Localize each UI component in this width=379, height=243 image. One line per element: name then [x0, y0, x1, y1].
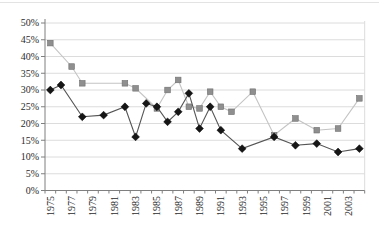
diamond-marker [78, 113, 86, 121]
diamond-marker [334, 148, 342, 156]
diamond-marker [57, 81, 65, 89]
y-axis-tick-label: 50% [21, 17, 39, 28]
x-axis-tick-label: 1981 [109, 196, 120, 216]
square-marker [69, 64, 75, 70]
square-marker [122, 81, 128, 87]
axes [45, 19, 365, 191]
y-axis-tick-label: 5% [26, 168, 39, 179]
black-diamonds-series-line [50, 85, 359, 152]
square-marker [293, 116, 299, 122]
x-axis-tick-label: 2003 [343, 196, 354, 216]
x-axis-tick-label: 1997 [279, 196, 290, 216]
diamond-marker [355, 145, 363, 153]
x-axis-tick-label: 2001 [322, 196, 333, 216]
y-axis-tick-label: 25% [21, 101, 39, 112]
square-marker [207, 89, 213, 95]
diamond-marker [132, 133, 140, 141]
diamond-marker [206, 103, 214, 111]
y-axis-ticks: 0%5%10%15%20%25%30%35%40%45%50% [21, 17, 45, 196]
black-diamonds-series [46, 81, 363, 156]
diamond-marker [185, 89, 193, 97]
y-axis-tick-label: 30% [21, 84, 39, 95]
x-axis-tick-label: 1977 [66, 196, 77, 216]
y-axis-tick-label: 0% [26, 185, 39, 196]
square-marker [218, 104, 224, 110]
diamond-marker [46, 86, 54, 94]
square-marker [314, 127, 320, 133]
diamond-marker [196, 125, 204, 133]
diamond-marker [121, 103, 129, 111]
square-marker [79, 81, 85, 87]
x-axis-tick-label: 1987 [173, 196, 184, 216]
x-axis-tick-label: 1995 [258, 196, 269, 216]
diamond-marker [100, 111, 108, 119]
square-marker [186, 104, 192, 110]
x-axis-tick-label: 1989 [194, 196, 205, 216]
line-chart: 0%5%10%15%20%25%30%35%40%45%50%197519771… [0, 0, 379, 243]
y-axis-tick-label: 15% [21, 135, 39, 146]
square-marker [250, 89, 256, 95]
y-axis-tick-label: 20% [21, 118, 39, 129]
square-marker [229, 109, 235, 115]
square-marker [197, 106, 203, 112]
x-axis-tick-label: 1993 [237, 196, 248, 216]
y-axis-tick-label: 10% [21, 151, 39, 162]
diamond-marker [292, 141, 300, 149]
x-axis-tick-label: 1991 [215, 196, 226, 216]
square-marker [48, 40, 54, 46]
square-marker [165, 87, 171, 93]
square-marker [175, 77, 181, 83]
y-axis-tick-label: 40% [21, 51, 39, 62]
chart-container: 0%5%10%15%20%25%30%35%40%45%50%197519771… [0, 0, 379, 243]
x-axis-tick-label: 1979 [87, 196, 98, 216]
x-axis-tick-label: 1999 [301, 196, 312, 216]
x-axis-tick-label: 1975 [45, 196, 56, 216]
x-axis-ticks: 1975197719791981198319851987198919911993… [45, 191, 365, 217]
x-axis-tick-label: 1985 [151, 196, 162, 216]
square-marker [357, 96, 363, 102]
diamond-marker [313, 140, 321, 148]
y-axis-tick-label: 45% [21, 34, 39, 45]
gridlines [45, 23, 365, 174]
square-marker [133, 86, 139, 92]
x-axis-tick-label: 1983 [130, 196, 141, 216]
y-axis-tick-label: 35% [21, 68, 39, 79]
square-marker [335, 126, 341, 132]
chart-frame-top-border [0, 2, 379, 3]
